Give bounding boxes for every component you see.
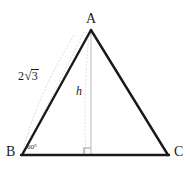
vertex-label-c: C: [174, 145, 183, 159]
guide-arc-outer: [22, 34, 75, 155]
geometry-figure: A B C 60° 2√3 h: [0, 0, 190, 171]
altitude-label-h: h: [76, 85, 82, 97]
triangle-side-ac: [91, 30, 168, 155]
side-length-label-ab: 2√3: [18, 69, 39, 82]
guide-arc-altitude: [85, 32, 89, 156]
angle-label-b: 60°: [27, 144, 37, 151]
vertex-label-b: B: [6, 145, 15, 159]
radical-coefficient: 2: [18, 70, 24, 82]
radical-radicand: 3: [31, 69, 39, 82]
radical-expression: 2√3: [18, 69, 39, 82]
vertex-label-a: A: [86, 12, 96, 26]
